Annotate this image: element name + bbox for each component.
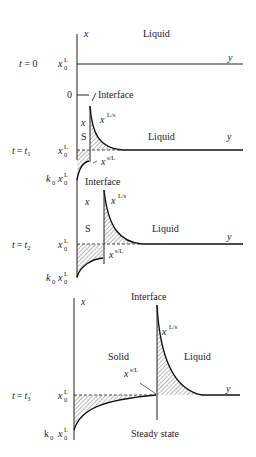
steady-state-caption: Steady state (131, 428, 180, 439)
level-x0L-t2: x L 0 (57, 237, 68, 252)
interface-label-t2: Interface (131, 291, 167, 302)
svg-text:L/s: L/s (169, 323, 178, 330)
svg-text:s/L: s/L (130, 366, 138, 373)
interface-label-t0: Interface (98, 89, 134, 100)
svg-text:x: x (100, 156, 106, 167)
svg-text:L: L (64, 237, 68, 244)
solid-label-s: S (81, 131, 87, 142)
curve-label-xsL-t3: x s/L (123, 366, 138, 379)
svg-text:L: L (64, 388, 68, 395)
curve-label-xsL-t1: x s/L (100, 154, 115, 167)
region-liquid-label: Liquid (152, 223, 179, 234)
svg-text:0: 0 (64, 245, 67, 252)
panel-t1: x S Liquid y x L/s x s/L t=t1 x L 0 k 0 … (12, 93, 243, 187)
svg-text:x: x (110, 195, 116, 206)
level-k0x0L-t1: k 0 x L 0 (46, 171, 68, 186)
zero-label: 0 (67, 89, 72, 100)
svg-text:s/L: s/L (115, 247, 123, 254)
time-label-t3: t=t3 (12, 390, 30, 402)
y-axis-label: y (226, 131, 232, 142)
svg-text:L: L (64, 426, 68, 433)
svg-text:x: x (99, 114, 105, 125)
svg-text:0: 0 (52, 179, 55, 186)
svg-text:k: k (46, 272, 51, 283)
region-liquid-label: Liquid (143, 28, 170, 39)
svg-text:0: 0 (64, 64, 67, 71)
curve-label-xsL-t2: x s/L (108, 247, 123, 260)
panel-t0: x Liquid y t=0 x L 0 0 Interface (19, 28, 243, 160)
curve-label-xLs-t2: x L/s (110, 192, 127, 206)
svg-text:0: 0 (64, 278, 67, 285)
svg-text:x: x (123, 368, 129, 379)
svg-text:0: 0 (64, 179, 67, 186)
svg-text:0: 0 (50, 434, 53, 441)
svg-text:L: L (64, 171, 68, 178)
y-axis-label: y (227, 52, 233, 63)
region-liquid-label: Liquid (184, 351, 211, 362)
solidification-diagram: x Liquid y t=0 x L 0 0 Interface x S Liq… (0, 0, 256, 457)
y-axis-label: y (226, 231, 232, 242)
level-k0x0L-t2: k 0 x L 0 (46, 270, 68, 285)
level-x0L-t0: x L 0 (57, 56, 68, 71)
x-axis-label: x (80, 296, 86, 307)
svg-text:x: x (57, 173, 63, 184)
solid-label-s: S (85, 223, 91, 234)
svg-text:0: 0 (64, 151, 67, 158)
solid-depletion-area-t2 (77, 244, 103, 276)
svg-text:x: x (57, 428, 63, 439)
panel-t3: x Solid Liquid y x L/s x s/L t=t3 x L 0 … (12, 296, 240, 441)
curve-label-xLs-t1: x L/s (99, 111, 116, 125)
svg-text:k: k (46, 173, 51, 184)
svg-text:x: x (57, 239, 63, 250)
level-k0x0L-t3: k 0 x L 0 (44, 426, 68, 441)
svg-text:L/s: L/s (107, 111, 116, 118)
svg-text:x: x (57, 145, 63, 156)
time-label-t1: t=t1 (12, 145, 30, 157)
solid-depletion-area-t3 (74, 395, 150, 428)
x-axis-label: x (84, 196, 90, 207)
region-liquid-label: Liquid (148, 131, 175, 142)
curve-label-xLs-t3: x L/s (161, 323, 178, 337)
y-axis-label: y (225, 383, 231, 394)
svg-text:0: 0 (52, 278, 55, 285)
level-x0L-t3: x L 0 (57, 388, 68, 403)
svg-text:L/s: L/s (118, 192, 127, 199)
svg-text:x: x (57, 390, 63, 401)
svg-text:k: k (44, 428, 49, 439)
panel-t2: x S Liquid y x L/s x s/L t=t2 x L 0 k 0 … (12, 178, 243, 302)
svg-text:L: L (64, 56, 68, 63)
time-label-t2: t=t2 (12, 239, 30, 251)
svg-text:s/L: s/L (107, 154, 115, 161)
svg-text:0: 0 (64, 434, 67, 441)
svg-text:0: 0 (64, 396, 67, 403)
interface-label-t1: Interface (85, 176, 121, 187)
time-label-t0: t=0 (19, 58, 38, 69)
svg-text:x: x (57, 272, 63, 283)
x-axis-label: x (83, 28, 89, 39)
svg-text:x: x (161, 326, 167, 337)
svg-text:L: L (64, 270, 68, 277)
level-x0L-t1: x L 0 (57, 143, 68, 158)
x-axis-label: x (80, 117, 86, 128)
svg-text:x: x (108, 249, 114, 260)
svg-text:x: x (57, 58, 63, 69)
svg-text:L: L (64, 143, 68, 150)
region-solid-label: Solid (108, 351, 129, 362)
interface-pointer-t1 (92, 93, 96, 101)
